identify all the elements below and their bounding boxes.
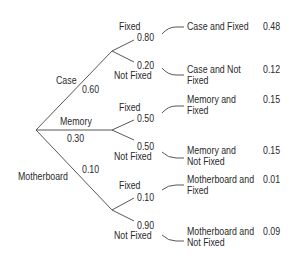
outcome-line1: Case and Not bbox=[187, 64, 241, 75]
branch-label-memory: Memory bbox=[60, 116, 92, 127]
outcome-line2: Not Fixed bbox=[187, 237, 254, 248]
motherboard-notfixed-label: Not Fixed bbox=[114, 230, 152, 241]
outcome-case-notfixed: Case and Not Fixed bbox=[187, 64, 241, 86]
joint-case-fixed: 0.48 bbox=[263, 21, 280, 32]
joint-case-notfixed: 0.12 bbox=[263, 64, 280, 75]
memory-fixed-prob: 0.50 bbox=[137, 113, 154, 124]
joint-motherboard-notfixed: 0.09 bbox=[263, 226, 280, 237]
case-fixed-prob: 0.80 bbox=[137, 32, 154, 43]
edge-memory-fixed bbox=[112, 120, 134, 130]
outcome-line2: Fixed bbox=[187, 105, 236, 116]
outcome-line2: Fixed bbox=[187, 185, 254, 196]
outcome-line1: Motherboard and bbox=[187, 174, 254, 185]
connector-case-fixed bbox=[162, 27, 184, 34]
outcome-memory-fixed: Memory and Fixed bbox=[187, 94, 236, 116]
memory-notfixed-label: Not Fixed bbox=[114, 151, 152, 162]
joint-motherboard-fixed: 0.01 bbox=[263, 174, 280, 185]
branch-label-case: Case bbox=[56, 75, 77, 86]
edge-case-fixed bbox=[112, 40, 134, 51]
connector-case-notfixed bbox=[162, 68, 184, 75]
branch-prob-motherboard: 0.10 bbox=[82, 164, 99, 175]
joint-memory-notfixed: 0.15 bbox=[263, 145, 280, 156]
outcome-memory-notfixed: Memory and Not Fixed bbox=[187, 145, 236, 167]
outcome-line2: Not Fixed bbox=[187, 156, 236, 167]
edge-motherboard-fixed bbox=[112, 198, 134, 210]
outcome-case-fixed: Case and Fixed bbox=[187, 21, 249, 32]
outcome-line1: Memory and bbox=[187, 145, 236, 156]
outcome-line1: Memory and bbox=[187, 94, 236, 105]
connector-motherboard-notfixed bbox=[162, 235, 184, 241]
outcome-line1: Case and Fixed bbox=[187, 21, 249, 32]
branch-prob-memory: 0.30 bbox=[67, 133, 84, 144]
memory-fixed-label: Fixed bbox=[119, 102, 141, 113]
outcome-motherboard-fixed: Motherboard and Fixed bbox=[187, 174, 254, 196]
joint-memory-fixed: 0.15 bbox=[263, 94, 280, 105]
branch-label-motherboard: Motherboard bbox=[18, 171, 68, 182]
case-notfixed-label: Not Fixed bbox=[114, 70, 152, 81]
edge-memory-notfixed bbox=[112, 130, 134, 140]
outcome-line1: Motherboard and bbox=[187, 226, 254, 237]
connector-motherboard-fixed bbox=[162, 185, 184, 190]
edge-motherboard-notfixed bbox=[112, 210, 134, 221]
branch-prob-case: 0.60 bbox=[82, 84, 99, 95]
outcome-line2: Fixed bbox=[187, 75, 241, 86]
motherboard-fixed-label: Fixed bbox=[119, 180, 141, 191]
case-fixed-label: Fixed bbox=[119, 21, 141, 32]
motherboard-fixed-prob: 0.10 bbox=[137, 192, 154, 203]
edge-case-notfixed bbox=[112, 51, 134, 62]
connector-memory-notfixed bbox=[162, 152, 184, 158]
connector-memory-fixed bbox=[162, 106, 184, 113]
outcome-motherboard-notfixed: Motherboard and Not Fixed bbox=[187, 226, 254, 248]
